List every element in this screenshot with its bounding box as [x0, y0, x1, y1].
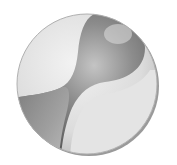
lower-lobe [0, 87, 69, 165]
sphere-emblem [0, 0, 177, 165]
